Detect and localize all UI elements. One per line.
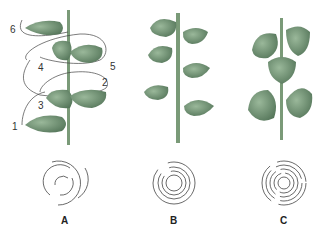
leaf-1 [25, 116, 66, 133]
panel-label-b: B [170, 215, 177, 226]
seq-2: 2 [102, 77, 108, 88]
leaf [150, 19, 176, 37]
seq-5: 5 [110, 61, 116, 72]
leaf [286, 26, 310, 56]
spiral-line [20, 20, 107, 125]
leaf-2 [70, 90, 106, 108]
diagram-c-circles [262, 161, 306, 205]
leaf-5 [70, 45, 103, 63]
leaf [252, 33, 278, 58]
leaf [144, 85, 168, 100]
seq-1: 1 [12, 121, 18, 132]
leaf [184, 100, 214, 116]
panel-label-a: A [61, 215, 68, 226]
panel-c-plant [248, 18, 312, 140]
leaf-4 [52, 41, 72, 60]
leaf [148, 46, 172, 63]
panel-b-plant [144, 13, 214, 143]
seq-6: 6 [10, 24, 16, 35]
stem [176, 13, 180, 143]
panel-label-c: C [280, 215, 287, 226]
leaf [183, 63, 210, 78]
leaf [248, 90, 276, 121]
panel-a-plant: 6 4 5 2 3 1 [10, 10, 116, 145]
leaf-3 [46, 90, 73, 109]
seq-3: 3 [38, 100, 44, 111]
phyllotaxy-diagram: 6 4 5 2 3 1 [0, 0, 319, 232]
leaf [268, 57, 296, 84]
leaf-6 [25, 21, 63, 35]
leaf [183, 28, 208, 44]
stem [67, 10, 70, 145]
diagram-a-circles [43, 161, 88, 205]
seq-4: 4 [38, 62, 44, 73]
leaf [286, 88, 312, 118]
diagram-b-circles [153, 162, 195, 204]
